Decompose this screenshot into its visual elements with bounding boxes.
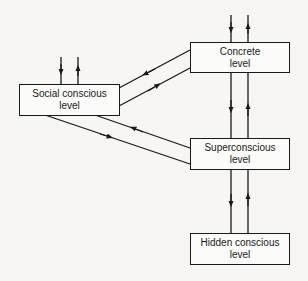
node-label-line2: level bbox=[230, 154, 251, 166]
node-label-line1: Concrete bbox=[220, 46, 261, 58]
node-label-line2: level bbox=[230, 249, 251, 261]
node-social-conscious-level: Social conscious level bbox=[19, 84, 120, 116]
node-label-line1: Social conscious bbox=[32, 88, 106, 100]
node-label-line2: level bbox=[230, 58, 251, 70]
node-label-line2: level bbox=[59, 100, 80, 112]
node-concrete-level: Concrete level bbox=[190, 42, 290, 73]
node-label-line1: Superconscious bbox=[204, 142, 275, 154]
node-superconscious-level: Superconscious level bbox=[190, 138, 290, 170]
node-hidden-conscious-level: Hidden conscious level bbox=[190, 233, 290, 265]
node-label-line1: Hidden conscious bbox=[201, 237, 280, 249]
